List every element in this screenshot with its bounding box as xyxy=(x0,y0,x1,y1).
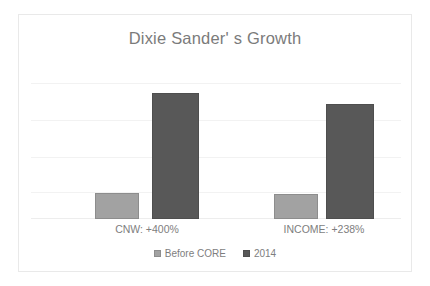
chart-legend: Before CORE 2014 xyxy=(19,248,411,259)
category-label-cnw: CNW: +400% xyxy=(87,223,207,235)
bar-2014-cnw[interactable] xyxy=(152,93,199,219)
plot-area xyxy=(31,67,401,219)
legend-swatch-icon-before-core xyxy=(154,250,161,257)
chart-frame: Dixie Sander' s Growth CNW: +400% INCOME… xyxy=(18,14,412,272)
category-label-income: INCOME: +238% xyxy=(264,223,384,235)
legend-label-before-core: Before CORE xyxy=(165,248,226,259)
bar-2014-income[interactable] xyxy=(326,104,374,219)
chart-title: Dixie Sander' s Growth xyxy=(19,29,411,48)
bar-before-core-income[interactable] xyxy=(274,194,318,219)
legend-item-2014[interactable]: 2014 xyxy=(243,248,276,259)
legend-swatch-icon-2014 xyxy=(243,250,250,257)
legend-item-before-core[interactable]: Before CORE xyxy=(154,248,226,259)
gridline-1 xyxy=(31,83,401,84)
bar-before-core-cnw[interactable] xyxy=(95,193,139,219)
category-axis: CNW: +400% INCOME: +238% xyxy=(31,223,401,241)
legend-label-2014: 2014 xyxy=(254,248,276,259)
